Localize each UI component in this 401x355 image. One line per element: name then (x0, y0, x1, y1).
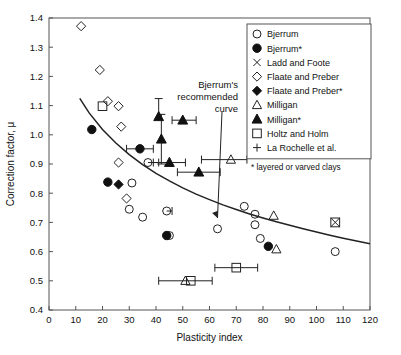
chart-figure: 01020304050607080901001101200.40.50.60.7… (0, 0, 401, 355)
y-tick-label: 1.1 (30, 100, 43, 111)
x-axis-title: Plasticity index (176, 332, 242, 343)
y-tick-label: 0.4 (30, 304, 43, 315)
legend-label: La Rochelle et al. (267, 143, 337, 153)
legend-label: Flaate and Preber* (267, 86, 343, 96)
legend-label: Ladd and Foote (267, 58, 330, 68)
x-tick-label: 20 (97, 314, 108, 325)
x-tick-label: 10 (70, 314, 81, 325)
x-tick-label: 120 (362, 314, 378, 325)
y-axis-title: Correction factor, μ (5, 121, 16, 206)
y-tick-label: 0.5 (30, 275, 43, 286)
marker-bjerrum (163, 231, 171, 239)
x-tick-label: 40 (151, 314, 162, 325)
legend-footnote: * layered or varved clays (251, 163, 341, 172)
marker-bjerrum (104, 178, 112, 186)
y-tick-label: 1.0 (30, 129, 43, 140)
y-tick-label: 0.7 (30, 217, 43, 228)
annotation-line: recommended (177, 91, 238, 102)
legend-label: Holtz and Holm (267, 129, 329, 139)
legend-label: Milligan* (267, 115, 302, 125)
x-tick-label: 80 (258, 314, 269, 325)
legend-label: Milligan (267, 100, 298, 110)
marker-bjerrum (264, 242, 272, 250)
legend-marker-filled-circle (253, 44, 261, 52)
annotation-line: Bjerrum's (198, 79, 238, 90)
legend-label: Flaate and Preber (267, 72, 339, 82)
legend[interactable]: BjerrumBjerrum*Ladd and FooteFlaate and … (247, 24, 371, 172)
y-tick-label: 0.9 (30, 158, 43, 169)
y-tick-label: 1.2 (30, 71, 43, 82)
x-tick-label: 30 (124, 314, 135, 325)
y-tick-label: 0.6 (30, 246, 43, 257)
x-tick-label: 110 (336, 314, 351, 325)
y-tick-label: 0.8 (30, 188, 43, 199)
scatter-plot-svg: 01020304050607080901001101200.40.50.60.7… (0, 0, 401, 355)
marker-bjerrum (136, 145, 144, 153)
x-tick-label: 70 (231, 314, 242, 325)
x-tick-label: 50 (177, 314, 188, 325)
x-tick-label: 0 (46, 314, 51, 325)
legend-label: Bjerrum (267, 29, 299, 39)
x-tick-label: 60 (204, 314, 215, 325)
legend-label: Bjerrum* (267, 44, 303, 54)
annotation-line: curve (215, 103, 238, 114)
x-tick-label: 100 (309, 314, 325, 325)
y-tick-label: 1.3 (30, 42, 43, 53)
x-tick-label: 90 (284, 314, 295, 325)
y-tick-label: 1.4 (30, 12, 43, 23)
marker-bjerrum (88, 125, 96, 133)
